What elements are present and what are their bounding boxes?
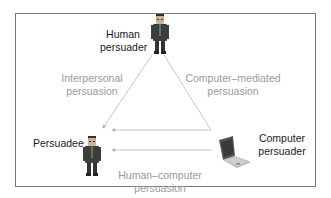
computer-persuader-laptop-icon xyxy=(215,134,253,170)
human-persuader-person-icon xyxy=(150,14,170,54)
human-computer-label-line2: persuasion xyxy=(110,182,210,195)
human-persuader-label-line1: Human xyxy=(100,28,146,41)
interpersonal-persuasion-label: Interpersonal persuasion xyxy=(52,72,132,98)
computer-persuader-label-line2: persuader xyxy=(255,145,309,158)
persuadee-person-icon xyxy=(82,136,102,176)
interpersonal-label-line1: Interpersonal xyxy=(52,72,132,85)
computer-mediated-persuasion-label: Computer–mediated persuasion xyxy=(183,72,283,98)
computer-mediated-label-line1: Computer–mediated xyxy=(183,72,283,85)
human-computer-persuasion-label: Human–computer persuasion xyxy=(110,169,210,195)
computer-persuader-label: Computer persuader xyxy=(255,132,309,158)
persuadee-label: Persuadee xyxy=(33,137,84,150)
human-persuader-label: Human persuader xyxy=(100,28,146,54)
computer-mediated-label-line2: persuasion xyxy=(183,85,283,98)
interpersonal-label-line2: persuasion xyxy=(52,85,132,98)
computer-persuader-label-line1: Computer xyxy=(255,132,309,145)
human-computer-label-line1: Human–computer xyxy=(110,169,210,182)
human-persuader-label-line2: persuader xyxy=(100,41,146,54)
